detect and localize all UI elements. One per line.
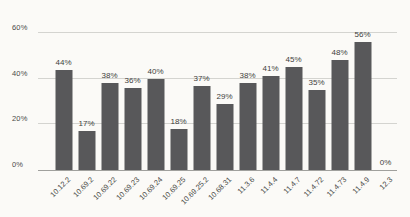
x-axis: 10.12.210.69.210.69.2210.69.2310.69.2410… — [52, 175, 397, 217]
x-axis-label: 12.3 — [377, 175, 394, 192]
bar-slot: 56% — [351, 33, 374, 170]
y-axis-label: 60% — [12, 23, 38, 32]
bar — [262, 76, 279, 170]
bar — [216, 104, 233, 170]
bar-slot: 0% — [374, 33, 397, 170]
x-axis-label: 11.4.7 — [281, 175, 302, 196]
y-axis-label: 0% — [12, 160, 38, 169]
bar — [124, 88, 141, 170]
bar-slot: 45% — [282, 33, 305, 170]
bar — [239, 83, 256, 170]
bar-slot: 38% — [236, 33, 259, 170]
bar-slot: 48% — [328, 33, 351, 170]
bar-slot: 18% — [167, 33, 190, 170]
x-axis-label: 11.4.73 — [324, 175, 348, 199]
bar — [170, 129, 187, 170]
bar-slot: 36% — [121, 33, 144, 170]
bar — [331, 60, 348, 170]
bars-layer: 44%17%38%36%40%18%37%29%38%41%45%35%48%5… — [52, 33, 397, 170]
bar — [308, 90, 325, 170]
bar — [78, 131, 95, 170]
bar-slot: 40% — [144, 33, 167, 170]
x-axis-label: 10.12.2 — [48, 175, 72, 199]
x-axis-label: 11.3.6 — [235, 175, 256, 196]
x-axis-label: 11.4.72 — [301, 175, 325, 199]
bar — [354, 42, 371, 170]
x-axis-label: 10.68.31 — [206, 175, 233, 202]
x-axis-label: 11.4.9 — [350, 175, 371, 196]
bar-slot: 29% — [213, 33, 236, 170]
bar-value-label: 0% — [366, 158, 405, 167]
x-axis-label: 10.69.24 — [137, 175, 164, 202]
bar-slot: 38% — [98, 33, 121, 170]
y-axis-label: 20% — [12, 114, 38, 123]
bar-chart: 44%17%38%36%40%18%37%29%38%41%45%35%48%5… — [0, 0, 410, 217]
y-axis-label: 40% — [12, 69, 38, 78]
x-axis-label: 10.69.23 — [114, 175, 141, 202]
x-axis-label: 10.69.22 — [91, 175, 118, 202]
bar-slot: 44% — [52, 33, 75, 170]
bar-slot: 41% — [259, 33, 282, 170]
bar-slot: 17% — [75, 33, 98, 170]
bar-slot: 37% — [190, 33, 213, 170]
plot-area: 44%17%38%36%40%18%37%29%38%41%45%35%48%5… — [38, 33, 397, 171]
bar — [101, 83, 118, 170]
x-axis-label: 11.4.4 — [258, 175, 279, 196]
